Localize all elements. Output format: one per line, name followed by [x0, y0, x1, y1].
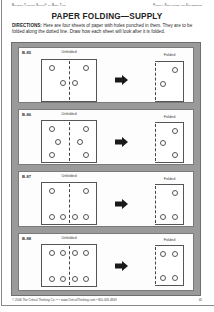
- folded-label: Folded: [155, 238, 184, 242]
- punched-hole: [60, 276, 66, 282]
- fold-line: [69, 246, 70, 285]
- punched-hole: [83, 126, 89, 132]
- fold-line: [69, 61, 70, 100]
- unfolded-label: Unfolded: [41, 112, 97, 116]
- fold-line: [155, 186, 156, 223]
- punched-hole: [72, 214, 78, 220]
- folded-label: Folded: [155, 177, 184, 181]
- punched-hole: [77, 139, 83, 145]
- punched-hole: [49, 214, 55, 220]
- punched-hole: [72, 250, 78, 256]
- unfolded-label: Unfolded: [41, 50, 97, 54]
- punched-hole: [49, 152, 55, 158]
- folded-answer-sheet[interactable]: [155, 245, 184, 286]
- punched-hole: [72, 80, 78, 86]
- exercise-id: B-87: [22, 174, 31, 179]
- punched-hole: [160, 214, 166, 220]
- punched-hole: [83, 250, 89, 256]
- unfolded-sheet: [41, 120, 97, 163]
- punched-hole: [172, 67, 178, 73]
- exercise-id: B-85: [22, 50, 31, 55]
- page-number: 45: [199, 298, 202, 302]
- directions-label: DIRECTIONS:: [12, 23, 42, 28]
- running-head-right: Figural Similarities and Differences: [153, 3, 202, 7]
- arrow-right-icon: [115, 199, 128, 209]
- folded-answer-sheet[interactable]: [155, 122, 184, 163]
- punched-hole: [83, 65, 89, 71]
- punched-hole: [172, 152, 178, 158]
- fold-line: [155, 63, 156, 100]
- punched-hole: [172, 275, 178, 281]
- fold-line: [69, 184, 70, 223]
- folded-answer-sheet[interactable]: [155, 184, 184, 225]
- page-edge-bottom: [1, 305, 214, 306]
- folded-label: Folded: [155, 53, 184, 57]
- punched-hole: [160, 140, 166, 146]
- arrow-right-icon: [115, 137, 128, 147]
- exercise-panel: B-88 Unfolded Folded: [18, 233, 194, 291]
- exercise-panel: B-87 Unfolded Folded: [18, 171, 194, 227]
- exercise-id: B-86: [22, 112, 31, 117]
- punched-hole: [160, 81, 166, 87]
- exercise-frame: B-85 Unfolded Folded B-86 Unfolded Folde…: [11, 42, 201, 296]
- exercise-id: B-88: [22, 236, 31, 241]
- punched-hole: [83, 276, 89, 282]
- exercise-panel: B-85 Unfolded Folded: [18, 47, 194, 103]
- punched-hole: [160, 275, 166, 281]
- fold-line: [155, 124, 156, 161]
- punched-hole: [49, 65, 55, 71]
- punched-hole: [49, 276, 55, 282]
- directions: DIRECTIONS: Here are four sheets of pape…: [12, 23, 204, 35]
- page-title: PAPER FOLDING—SUPPLY: [0, 12, 214, 21]
- punched-hole: [49, 126, 55, 132]
- punched-hole: [172, 190, 178, 196]
- punched-hole: [60, 80, 66, 86]
- arrow-right-icon: [115, 75, 128, 85]
- arrow-right-icon: [115, 261, 128, 271]
- running-head-left: Building Thinking Skills® — Book Two: [12, 3, 66, 7]
- punched-hole: [172, 251, 178, 257]
- unfolded-sheet: [41, 59, 97, 102]
- punched-hole: [83, 214, 89, 220]
- exercise-panel: B-86 Unfolded Folded: [18, 109, 194, 165]
- punched-hole: [172, 214, 178, 220]
- folded-answer-sheet[interactable]: [155, 61, 184, 102]
- punched-hole: [160, 251, 166, 257]
- folded-label: Folded: [155, 115, 184, 119]
- punched-hole: [83, 152, 89, 158]
- punched-hole: [55, 139, 61, 145]
- punched-hole: [172, 128, 178, 134]
- unfolded-label: Unfolded: [41, 236, 97, 240]
- unfolded-label: Unfolded: [41, 174, 97, 178]
- punched-hole: [49, 188, 55, 194]
- punched-hole: [49, 250, 55, 256]
- unfolded-sheet: [41, 244, 97, 287]
- fold-line: [69, 122, 70, 161]
- footer-copyright: © 2006 The Critical Thinking Co.™ • www.…: [12, 298, 117, 302]
- punched-hole: [83, 188, 89, 194]
- fold-line: [155, 247, 156, 284]
- page-edge-left: [1, 0, 2, 305]
- punched-hole: [60, 250, 66, 256]
- punched-hole: [72, 276, 78, 282]
- unfolded-sheet: [41, 182, 97, 225]
- punched-hole: [60, 214, 66, 220]
